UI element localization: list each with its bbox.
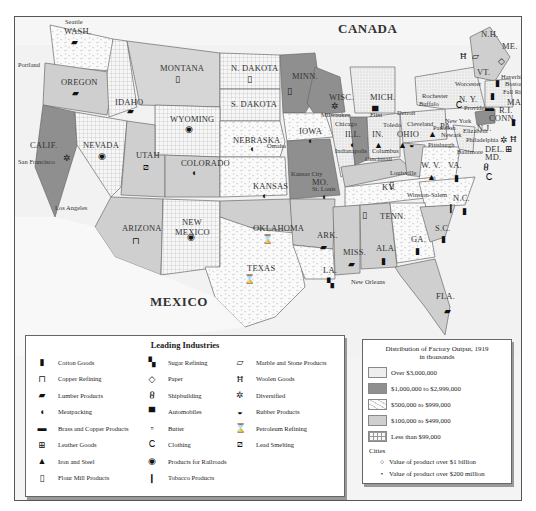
legend-item: ▚Sugar Refining xyxy=(144,354,227,371)
flour-mill-icon: ▯ xyxy=(34,473,50,483)
legend-item: ⧄Lead Smelting xyxy=(232,437,327,454)
dot-icon: • xyxy=(375,470,389,477)
lumber-products-icon: ▰ xyxy=(444,307,451,316)
copper-refining-icon: ⊓ xyxy=(34,374,50,384)
automobiles-icon: ▀ xyxy=(144,407,160,417)
legend-item: ▲Iron and Steel xyxy=(34,453,129,470)
legend-column-1: ▮Cotton Goods ⊓Copper Refining ▰Lumber P… xyxy=(34,354,129,486)
legend-item: ĦWoolen Goods xyxy=(232,371,327,388)
swatch xyxy=(368,431,387,442)
open-circle-icon: ○ xyxy=(375,458,389,465)
cotton-goods-icon: ▮ xyxy=(511,118,516,127)
state-label-minn: MINN. xyxy=(292,71,318,81)
legend-item: ▮Cotton Goods xyxy=(34,354,129,371)
clothing-icon: Ꮯ xyxy=(144,439,160,450)
legend-item: ▱Marble and Stone Products xyxy=(232,354,327,371)
lumber-products-icon: ▰ xyxy=(320,243,327,252)
city-pittsburgh: Pittsburgh xyxy=(428,141,455,148)
city-rochester: Rochester xyxy=(422,92,448,99)
state-label-w-v: W. V. xyxy=(421,160,441,170)
city-cincinnati: Cincinnati xyxy=(365,155,392,162)
cotton-goods-icon: ▮ xyxy=(34,357,50,367)
state-label-ark: ARK. xyxy=(317,230,338,240)
legend-item: ▀Automobiles xyxy=(144,404,227,421)
legend-item: ✲Diversified xyxy=(232,387,327,404)
legend-item: ⌛Petroleum Refining xyxy=(232,420,327,437)
city-new-orleans: New Orleans xyxy=(351,278,385,285)
brass-copper-icon: ▬ xyxy=(34,423,50,433)
cotton-goods-icon: ▮ xyxy=(462,207,467,216)
meatpacking-icon: ◖ xyxy=(191,169,196,178)
legend-class-under-99k: Less than $99,000 xyxy=(368,428,511,444)
state-label-ala: ALA. xyxy=(376,243,396,253)
city-portland: Portland xyxy=(18,61,40,68)
petroleum-refining-icon: ⌛ xyxy=(244,275,255,284)
brass-copper-icon: ▬ xyxy=(485,104,494,113)
legend-class-100k-499k: $100,000 to $499,000 xyxy=(368,412,511,428)
mexico-label: MEXICO xyxy=(150,294,208,310)
state-label-nh: N.H. xyxy=(481,29,498,39)
canada-label: CANADA xyxy=(338,21,397,37)
city-worcester: Worcester xyxy=(455,80,481,87)
railroad-products-icon: ◉ xyxy=(185,125,193,134)
state-label-iowa: IOWA xyxy=(299,126,322,136)
diversified-icon: ✲ xyxy=(63,154,71,163)
flour-mill-icon: ▯ xyxy=(362,211,367,220)
state-label-md: MD. xyxy=(485,152,501,162)
woolen-goods-icon: Ħ xyxy=(232,374,248,384)
legend-factory-output: Distribution of Factory Output, 1919 in … xyxy=(362,339,512,484)
meatpacking-icon: ◖ xyxy=(321,193,326,202)
legend-city-200m: •Value of product over $200 million xyxy=(375,467,511,479)
city-newark: Newark xyxy=(441,131,462,138)
cotton-goods-icon: ▮ xyxy=(415,247,420,256)
city-san-francisco: San Francisco xyxy=(18,158,55,165)
leather-goods-icon: ⊞ xyxy=(505,145,513,154)
state-label-in: IN. xyxy=(372,129,384,139)
lumber-products-icon: ▰ xyxy=(72,89,79,98)
city-los-angeles: Los Angeles xyxy=(55,204,87,211)
shipbuilding-icon: ⩉ xyxy=(144,390,160,401)
legend-cities-title: Cities xyxy=(369,447,511,455)
rubber-products-icon: ◒ xyxy=(409,141,414,150)
diversified-icon: ✲ xyxy=(331,102,339,111)
state-label-montana: MONTANA xyxy=(160,63,204,73)
city-boston: Boston xyxy=(505,80,522,87)
state-label-texas: TEXAS xyxy=(247,263,275,273)
meatpacking-icon: ◖ xyxy=(307,137,312,146)
iron-steel-icon: ▲ xyxy=(34,456,50,466)
marble-stone-icon: ▱ xyxy=(232,357,248,367)
state-label-oklahoma: OKLAHOMA xyxy=(253,223,304,233)
legend-item: ◖Meatpacking xyxy=(34,404,129,421)
city-louisville: Louisville xyxy=(390,169,416,176)
swatch xyxy=(368,399,387,410)
lead-smelting-icon: ⧄ xyxy=(143,163,149,172)
flour-mill-icon: ▯ xyxy=(389,181,394,190)
city-winston-salem: Winston-Salem xyxy=(407,191,447,198)
legend-class-1m-3m: $1,000,000 to $2,999,000 xyxy=(368,380,511,396)
legend-class-over-3m: Over $3,000,000 xyxy=(368,364,511,380)
legend-item: ◉Products for Railroads xyxy=(144,453,227,470)
petroleum-refining-icon: ⌛ xyxy=(262,235,273,244)
petroleum-refining-icon: ⌛ xyxy=(232,423,248,433)
meatpacking-icon: ◖ xyxy=(249,145,254,154)
legend-item: ▬Brass and Copper Products xyxy=(34,420,129,437)
butter-icon: ▫ xyxy=(144,423,160,433)
state-label-colorado: COLORADO xyxy=(181,158,230,168)
automobiles-icon: ▀ xyxy=(372,107,378,116)
city-baltimore: Baltimore xyxy=(457,148,483,155)
sugar-refining-icon: ▚ xyxy=(144,357,160,367)
city-new-york: New York xyxy=(445,117,471,124)
city-haverhill: Haverhill xyxy=(501,73,522,80)
meatpacking-icon: ◖ xyxy=(34,407,50,417)
tobacco-products-icon: ❙ xyxy=(144,473,160,483)
city-milwaukee: Milwaukee xyxy=(321,111,350,118)
legend-column-3: ▱Marble and Stone Products ĦWoolen Goods… xyxy=(232,354,327,453)
copper-refining-icon: ⊓ xyxy=(132,237,140,246)
state-label-mich: MICH. xyxy=(370,92,395,102)
clothing-icon: Ꮯ xyxy=(456,101,462,110)
meatpacking-icon: ◖ xyxy=(349,141,354,150)
legend-industries-title: Leading Industries xyxy=(26,340,344,350)
iron-steel-icon: ▲ xyxy=(428,130,437,139)
sugar-refining-icon: ▚ xyxy=(327,279,334,288)
state-label-wash: WASH. xyxy=(64,26,91,36)
